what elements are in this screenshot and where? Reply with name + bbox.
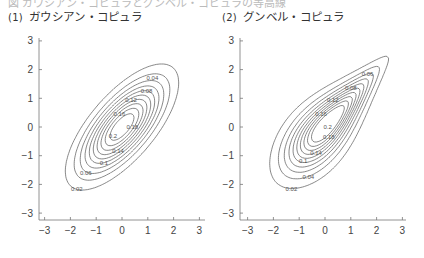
contour-label: 0.02 — [286, 186, 298, 192]
x-tick-label: 2 — [374, 225, 380, 236]
y-tick-label: 0 — [228, 122, 234, 133]
y-tick-label: −1 — [223, 150, 235, 161]
contour-label: 0.04 — [147, 75, 159, 81]
contour-line — [97, 99, 147, 154]
contour-label: 0.16 — [114, 111, 126, 117]
y-tick-label: 1 — [27, 93, 33, 104]
y-tick-label: 0 — [27, 122, 33, 133]
y-tick-label: −1 — [22, 150, 34, 161]
contour-line — [74, 74, 170, 180]
contour-label: 0.2 — [109, 133, 118, 139]
contour-label: 0.06 — [80, 170, 92, 176]
contour-label: 0.1 — [299, 158, 308, 164]
x-tick-label: −3 — [39, 225, 51, 236]
contour-label: 0.08 — [141, 88, 153, 94]
contour-label: 0.08 — [345, 85, 357, 91]
contour-label: 0.04 — [302, 174, 314, 180]
contour-label: 0.2 — [323, 124, 332, 130]
y-tick-label: 3 — [228, 35, 234, 46]
x-tick-label: 0 — [119, 225, 125, 236]
contour-label: 0.18 — [323, 134, 335, 140]
y-tick-label: 2 — [27, 64, 33, 75]
contour-label: 0.16 — [315, 111, 327, 117]
x-tick-label: 1 — [145, 225, 151, 236]
y-tick-label: −2 — [223, 179, 235, 190]
y-tick-label: −3 — [223, 208, 235, 219]
contour-line — [278, 66, 379, 178]
contour-label: 0.1 — [100, 160, 109, 166]
contour-label: 0.06 — [362, 71, 374, 77]
contour-label: 0.12 — [327, 97, 339, 103]
contour-label: 0.14 — [310, 150, 322, 156]
x-tick-label: 2 — [171, 225, 177, 236]
contour-line — [289, 79, 368, 167]
y-tick-label: −3 — [22, 208, 34, 219]
contour-line — [85, 86, 159, 168]
x-tick-label: −3 — [242, 225, 254, 236]
contour-line — [284, 73, 373, 172]
y-tick-label: 1 — [228, 93, 234, 104]
x-tick-label: 0 — [322, 225, 328, 236]
chart-panel-1: −3−2−10123−3−2−101230.040.080.120.160.20… — [22, 35, 205, 236]
contour-label: 0.14 — [112, 148, 124, 154]
y-tick-label: 2 — [228, 64, 234, 75]
y-tick-label: −2 — [22, 179, 34, 190]
x-tick-label: −1 — [293, 225, 305, 236]
contour-label: 0.12 — [125, 97, 137, 103]
contour-label: 0.18 — [126, 124, 138, 130]
x-tick-label: −2 — [65, 225, 77, 236]
x-tick-label: 3 — [400, 225, 406, 236]
contour-label: 0.02 — [71, 186, 83, 192]
x-tick-label: −1 — [90, 225, 102, 236]
x-tick-label: 1 — [348, 225, 354, 236]
chart-panel-2: −3−2−10123−3−2−101230.060.080.120.160.20… — [223, 35, 406, 236]
x-tick-label: −2 — [268, 225, 280, 236]
x-tick-label: 3 — [197, 225, 203, 236]
contour-charts: −3−2−10123−3−2−101230.040.080.120.160.20… — [0, 0, 424, 258]
y-tick-label: 3 — [27, 35, 33, 46]
contour-line — [80, 81, 164, 174]
